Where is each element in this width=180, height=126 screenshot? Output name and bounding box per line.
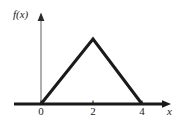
x-tick-label-2: 2 <box>86 106 100 117</box>
x-tick-label-0: 0 <box>34 106 48 117</box>
x-tick-label-4: 4 <box>135 106 149 117</box>
x-axis-label: x <box>167 106 172 117</box>
y-axis-arrowhead <box>38 13 45 22</box>
y-axis-label: f(x) <box>13 9 28 20</box>
function-plot-figure: f(x) x 0 2 4 <box>0 0 180 126</box>
function-curve <box>41 39 142 104</box>
